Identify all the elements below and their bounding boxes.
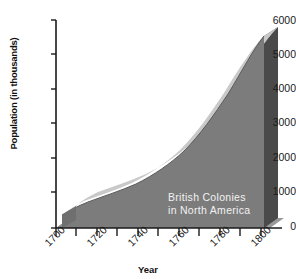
y-tick-label-3000: 3000 [250, 117, 296, 127]
population-area-chart: Population (in thousands) 6000 5000 4000… [0, 0, 296, 279]
chart-annotation-line1: British Colonies [168, 191, 246, 204]
y-tick-label-1000: 1000 [250, 186, 296, 196]
y-tick-label-4000: 4000 [250, 83, 296, 93]
y-tick-label-6000: 6000 [250, 15, 296, 25]
chart-annotation-line2: in North America [168, 204, 250, 217]
y-tick-label-2000: 2000 [250, 152, 296, 162]
x-axis-title: Year [0, 264, 296, 275]
y-axis-title: Population (in thousands) [8, 19, 19, 169]
y-tick-label-5000: 5000 [250, 49, 296, 59]
